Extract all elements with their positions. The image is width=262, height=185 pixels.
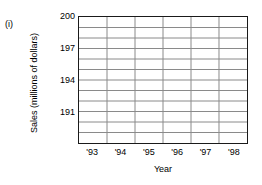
x-axis-tick-label: '93	[78, 147, 106, 158]
y-axis-tick-label: 197	[48, 43, 75, 53]
x-axis-tick-label: '97	[191, 147, 219, 158]
figure-root: (i) Sales (millions of dollars) 20019719…	[0, 0, 262, 185]
x-axis-tick-label: '95	[135, 147, 163, 158]
plot-area	[78, 16, 248, 144]
x-axis-title: Year	[78, 164, 248, 175]
y-axis-tick-label: 194	[48, 75, 75, 85]
y-axis-tick-labels: 200197194191	[48, 16, 75, 144]
y-axis-title: Sales (millions of dollars)	[29, 13, 39, 153]
x-axis-tick-label: '94	[106, 147, 134, 158]
y-axis-tick-label: 191	[48, 107, 75, 117]
grid-lines	[79, 17, 247, 143]
figure-index-label: (i)	[5, 19, 13, 29]
y-axis-tick-label: 200	[48, 11, 75, 21]
x-axis-tick-label: '98	[220, 147, 248, 158]
x-axis-tick-labels: '93'94'95'96'97'98	[78, 147, 248, 160]
x-axis-tick-label: '96	[163, 147, 191, 158]
